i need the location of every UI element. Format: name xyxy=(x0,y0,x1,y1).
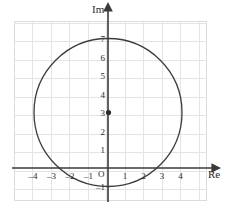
y-tick-label: –1 xyxy=(93,183,105,192)
origin-label: O xyxy=(98,170,105,179)
y-tick-label: 5 xyxy=(93,72,105,81)
y-tick-label: 3 xyxy=(93,109,105,118)
imaginary-axis-label: Im xyxy=(92,4,104,15)
real-axis-label: Re xyxy=(208,169,220,180)
x-tick-label: –2 xyxy=(63,172,77,181)
x-tick-label: 3 xyxy=(155,172,169,181)
circle-centre-point xyxy=(106,110,111,115)
y-tick-label: 4 xyxy=(93,91,105,100)
x-tick-label: –4 xyxy=(26,172,40,181)
x-tick-label: 1 xyxy=(118,172,132,181)
x-tick-label: –1 xyxy=(82,172,96,181)
y-tick-label: 6 xyxy=(93,54,105,63)
plot-canvas xyxy=(0,0,234,216)
y-tick-label: 1 xyxy=(93,146,105,155)
y-tick-label: 2 xyxy=(93,128,105,137)
x-tick-label: –3 xyxy=(45,172,59,181)
x-tick-label: 4 xyxy=(174,172,188,181)
complex-plane-figure: Im Re O –4 –3 –2 –1 1 2 3 4 –1 1 2 3 4 5… xyxy=(0,0,234,216)
y-tick-label: 7 xyxy=(93,35,105,44)
x-tick-label: 2 xyxy=(137,172,151,181)
